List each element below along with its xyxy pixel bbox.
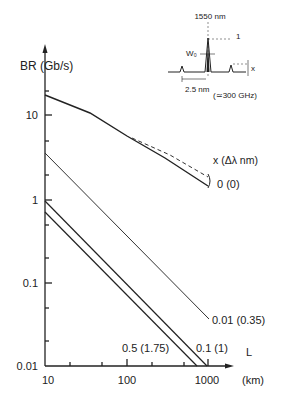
- inset-x-label: x: [251, 64, 255, 73]
- y-tick-1: 1: [32, 194, 38, 206]
- series-2-label: 0.1 (1): [196, 342, 228, 354]
- x-tick-100: 100: [118, 374, 136, 386]
- x-axis: [45, 359, 234, 369]
- y-tick-0-01: 0.01: [17, 360, 38, 372]
- y-tick-10: 10: [26, 109, 38, 121]
- x-axis-label: L: [246, 346, 252, 358]
- inset-width-label: W₀: [186, 49, 197, 58]
- x-tick-1000: 1000: [195, 374, 219, 386]
- series-1: [45, 153, 209, 319]
- y-tick-0-1: 0.1: [23, 277, 38, 289]
- series-0-dashed: [132, 138, 208, 177]
- legend-title: x (Δλ nm): [213, 154, 258, 166]
- inset-spacing-label: 2.5 nm: [185, 85, 210, 94]
- y-axis-label: BR (Gb/s): [20, 59, 73, 73]
- series-0-label: 0 (0): [217, 178, 240, 190]
- inset-peak-label: 1: [236, 32, 241, 41]
- series-3-label: 0.5 (1.75): [122, 342, 169, 354]
- chart: 10 1 0.1 0.01 10 100 1000 (km) L BR (Gb/…: [0, 0, 289, 404]
- inset-center-label: 1550 nm: [194, 12, 225, 21]
- bracket-series-0: [208, 174, 210, 188]
- y-axis: [43, 44, 53, 366]
- inset-spectrum: 1550 nm 1 W₀ x 2.5 nm (≃300 GHz): [168, 12, 257, 100]
- series-1-label: 0.01 (0.35): [212, 314, 265, 326]
- series-3: [45, 212, 197, 366]
- series-0: [45, 95, 208, 186]
- x-tick-10: 10: [42, 374, 54, 386]
- inset-freq-label: (≃300 GHz): [213, 91, 257, 100]
- x-unit-label: (km): [242, 374, 264, 386]
